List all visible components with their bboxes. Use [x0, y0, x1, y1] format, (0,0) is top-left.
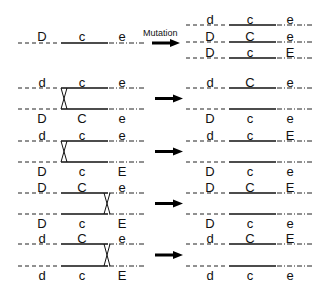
- pair-1-result-top-locus-0: d: [206, 129, 213, 142]
- pair-3-result-bottom-locus-0: d: [206, 269, 213, 282]
- pair-2-result-bottom-locus-0: D: [205, 217, 214, 230]
- pair-2-bottom-locus-1: c: [79, 217, 86, 230]
- pair-0-bottom-locus-1: C: [77, 112, 86, 125]
- diagram-canvas: DceMutationdceDCeDcEdceDCedCeDcedceDcEdc…: [0, 0, 329, 294]
- mutant-chromosome-2-locus-1: c: [247, 46, 254, 59]
- mutant-chromosome-2-locus-2: E: [286, 46, 295, 59]
- pair-0-arrow-head: [173, 95, 183, 103]
- pair-3-top-locus-0: d: [38, 232, 45, 245]
- source-chromosome-locus-1: c: [79, 30, 86, 43]
- pair-3-result-top-locus-2: E: [286, 232, 295, 245]
- pair-0-result-top-locus-2: e: [286, 76, 293, 89]
- mutant-chromosome-0-locus-0: d: [206, 13, 213, 26]
- pair-3-bottom-locus-1: c: [79, 269, 86, 282]
- mutant-chromosome-1-locus-1: C: [245, 30, 254, 43]
- pair-3-top-locus-2: e: [118, 232, 125, 245]
- pair-1-result-bottom-locus-1: c: [247, 165, 254, 178]
- pair-0-result-bottom-locus-1: c: [247, 112, 254, 125]
- pair-1-top-locus-0: d: [38, 129, 45, 142]
- chromosome-diagram: [0, 0, 329, 294]
- pair-2-result-bottom-locus-2: e: [286, 217, 293, 230]
- source-chromosome-locus-0: D: [37, 30, 46, 43]
- pair-2-top-locus-2: e: [118, 181, 125, 194]
- mutant-chromosome-1-locus-0: D: [205, 30, 214, 43]
- pair-2-top-locus-1: C: [77, 181, 86, 194]
- pair-0-top-locus-0: d: [38, 76, 45, 89]
- pair-1-bottom-locus-2: E: [118, 165, 127, 178]
- pair-0-bottom-locus-2: e: [118, 112, 125, 125]
- pair-1-result-top-locus-1: c: [247, 129, 254, 142]
- pair-3-top-locus-1: C: [77, 232, 86, 245]
- pair-2-bottom-locus-2: E: [118, 217, 127, 230]
- pair-3-result-top-locus-0: d: [206, 232, 213, 245]
- pair-3-result-top-locus-1: C: [245, 232, 254, 245]
- pair-3-result-bottom-locus-1: c: [247, 269, 254, 282]
- pair-1-bottom-locus-0: D: [37, 165, 46, 178]
- mutant-chromosome-0-locus-2: e: [286, 13, 293, 26]
- pair-2-arrow-head: [173, 200, 183, 208]
- pair-1-bottom-locus-1: c: [79, 165, 86, 178]
- pair-1-top-locus-1: c: [79, 129, 86, 142]
- pair-1-result-bottom-locus-0: D: [205, 165, 214, 178]
- pair-0-bottom-locus-0: D: [37, 112, 46, 125]
- pair-3-result-bottom-locus-2: e: [286, 269, 293, 282]
- pair-0-result-bottom-locus-2: e: [286, 112, 293, 125]
- pair-0-result-bottom-locus-0: D: [205, 112, 214, 125]
- pair-0-result-top-locus-0: d: [206, 76, 213, 89]
- pair-2-top-locus-0: D: [37, 181, 46, 194]
- mutant-chromosome-0-locus-1: c: [247, 13, 254, 26]
- pair-1-result-bottom-locus-2: e: [286, 165, 293, 178]
- pair-2-result-top-locus-1: C: [245, 181, 254, 194]
- pair-2-result-bottom-locus-1: c: [247, 217, 254, 230]
- pair-0-top-locus-2: e: [118, 76, 125, 89]
- source-chromosome-locus-2: e: [118, 30, 125, 43]
- mutant-chromosome-1-locus-2: e: [286, 30, 293, 43]
- pair-1-result-top-locus-2: E: [286, 129, 295, 142]
- pair-2-bottom-locus-0: D: [37, 217, 46, 230]
- pair-1-top-locus-2: e: [118, 129, 125, 142]
- pair-2-result-top-locus-2: E: [286, 181, 295, 194]
- pair-3-bottom-locus-2: E: [118, 269, 127, 282]
- mutant-chromosome-2-locus-0: D: [205, 46, 214, 59]
- pair-0-result-top-locus-1: C: [245, 76, 254, 89]
- pair-0-top-locus-1: c: [79, 76, 86, 89]
- pair-3-arrow-head: [173, 251, 183, 259]
- pair-1-arrow-head: [173, 148, 183, 156]
- mutation-label: Mutation: [143, 29, 178, 38]
- pair-3-bottom-locus-0: d: [38, 269, 45, 282]
- pair-2-result-top-locus-0: D: [205, 181, 214, 194]
- mutation-arrow-head: [170, 39, 180, 47]
